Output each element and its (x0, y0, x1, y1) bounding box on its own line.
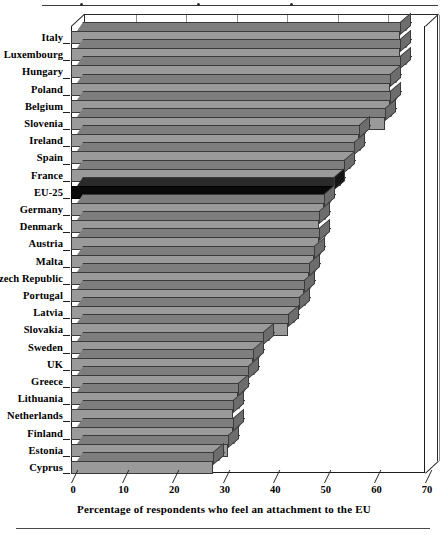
bar-top-face (77, 246, 326, 255)
bar-chart: ItalyLuxembourgHungaryPolandBelgiumSlove… (0, 0, 448, 537)
bar-top-face (77, 22, 412, 31)
y-axis-tick (63, 404, 70, 405)
bar-top-face (77, 142, 366, 151)
y-axis-label-uk: UK (47, 359, 63, 370)
x-axis-tick (273, 470, 281, 483)
y-axis-label-poland: Poland (31, 84, 63, 95)
bar-top-face (77, 263, 321, 272)
y-axis-tick (63, 335, 70, 336)
x-axis-tick-label-70: 70 (422, 484, 433, 496)
y-axis-label-slovenia: Slovenia (24, 118, 63, 129)
y-axis-tick (63, 181, 70, 182)
y-axis-label-hungary: Hungary (22, 66, 63, 77)
bar-top-face (77, 332, 275, 341)
y-axis-tick (63, 370, 70, 371)
bar-top-face (77, 74, 402, 83)
y-axis-tick (63, 112, 70, 113)
y-axis-tick (63, 129, 70, 130)
bar-top-face (77, 108, 397, 117)
x-axis-tick-label-30: 30 (219, 484, 230, 496)
y-axis-label-malta: Malta (36, 256, 63, 267)
bar-top-face (77, 125, 371, 134)
bar-top-face (77, 383, 250, 392)
x-axis-tick (374, 470, 382, 483)
y-axis-tick (63, 60, 70, 61)
y-axis-tick (63, 439, 70, 440)
y-axis-label-lithuania: Lithuania (18, 393, 63, 404)
x-axis-tick-label-0: 0 (70, 484, 75, 496)
y-axis-tick (63, 284, 70, 285)
y-axis-label-slovakia: Slovakia (24, 324, 63, 335)
bar-top-face (77, 366, 260, 375)
y-axis-label-finland: Finland (27, 428, 63, 439)
y-axis-tick (63, 232, 70, 233)
y-axis-tick (63, 215, 70, 216)
y-axis-tick (63, 78, 70, 79)
bar-top-face (77, 452, 225, 461)
x-axis-tick (122, 470, 130, 483)
page-bottom-rule (16, 528, 430, 529)
bar-top-face (77, 194, 336, 203)
y-axis-tick (63, 164, 70, 165)
chart-page: ItalyLuxembourgHungaryPolandBelgiumSlove… (0, 0, 448, 537)
bar-top-face (77, 39, 412, 48)
y-axis-tick (63, 421, 70, 422)
y-axis-tick (63, 387, 70, 388)
y-axis-label-greece: Greece (31, 376, 63, 387)
y-axis-tick (63, 267, 70, 268)
y-axis-label-belgium: Belgium (25, 101, 63, 112)
y-axis-label-netherlands: Netherlands (7, 410, 63, 421)
y-axis-tick (63, 456, 70, 457)
bar-top-face (77, 56, 412, 65)
y-axis-label-denmark: Denmark (20, 221, 63, 232)
x-axis-title: Percentage of respondents who feel an at… (0, 503, 448, 515)
x-axis-tick (425, 470, 433, 483)
y-axis-label-italy: Italy (42, 32, 64, 43)
bar-top-face (77, 211, 331, 220)
bar-series (71, 26, 425, 473)
y-axis-tick (63, 95, 70, 96)
y-axis-label-luxembourg: Luxembourg (4, 49, 63, 60)
x-axis-tick-label-60: 60 (371, 484, 382, 496)
y-axis-label-latvia: Latvia (33, 307, 63, 318)
y-axis-label-france: France (31, 170, 63, 181)
x-axis-tick (172, 470, 180, 483)
y-axis-tick (63, 198, 70, 199)
y-axis-tick (63, 43, 70, 44)
y-axis-labels: ItalyLuxembourgHungaryPolandBelgiumSlove… (0, 26, 69, 473)
y-axis-tick (63, 353, 70, 354)
bar-top-face (77, 418, 245, 427)
x-axis-tick-label-40: 40 (270, 484, 281, 496)
y-axis-tick (63, 318, 70, 319)
bar-top-face (77, 228, 331, 237)
x-axis-tick-label-50: 50 (321, 484, 332, 496)
bar-top-face (77, 177, 346, 186)
y-axis-tick (63, 301, 70, 302)
bar-top-face (77, 280, 316, 289)
y-axis-label-ireland: Ireland (29, 135, 63, 146)
y-axis-label-eu-25: EU-25 (34, 187, 63, 198)
bar-top-face (77, 314, 301, 323)
x-axis-tick (324, 470, 332, 483)
y-axis-label-portugal: Portugal (23, 290, 63, 301)
bar-top-face (77, 400, 245, 409)
x-axis-tick (71, 470, 79, 483)
y-axis-label-sweden: Sweden (28, 342, 63, 353)
x-axis-ticks (0, 470, 448, 484)
y-axis-tick (63, 250, 70, 251)
x-axis-tick-label-10: 10 (118, 484, 129, 496)
y-axis-label-estonia: Estonia (28, 445, 63, 456)
x-axis-tick-label-20: 20 (169, 484, 180, 496)
bar-top-face (77, 435, 240, 444)
y-axis-label-germany: Germany (20, 204, 63, 215)
x-axis-tick (223, 470, 231, 483)
y-axis-tick (63, 146, 70, 147)
gridline (439, 15, 440, 461)
bar-top-face (77, 91, 402, 100)
y-axis-label-czech-republic: Czech Republic (0, 273, 63, 284)
y-axis-label-spain: Spain (37, 152, 63, 163)
x-axis-tick-labels: 010203040506070 (0, 484, 448, 500)
bar-top-face (77, 297, 311, 306)
y-axis-label-austria: Austria (28, 238, 63, 249)
bar-top-face (77, 349, 265, 358)
